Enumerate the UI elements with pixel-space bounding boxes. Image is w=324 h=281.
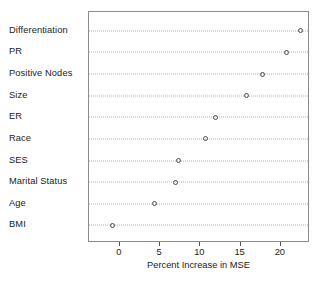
grid-line	[89, 95, 308, 96]
x-axis-tick-label: 5	[156, 247, 161, 257]
category-label: BMI	[0, 219, 79, 229]
x-axis-tick-label: 10	[194, 247, 204, 257]
grid-line	[89, 182, 308, 183]
grid-line	[89, 225, 308, 226]
x-axis-tick-label: 20	[275, 247, 285, 257]
data-point	[176, 158, 181, 163]
data-point	[244, 93, 249, 98]
category-label: Positive Nodes	[0, 68, 79, 78]
plot-area	[89, 12, 308, 241]
x-axis-tick	[159, 242, 160, 246]
category-axis-labels: DifferentiationPRPositive NodesSizeERRac…	[0, 18, 84, 246]
category-label: Differentiation	[0, 25, 79, 35]
dot-plot-figure: DifferentiationPRPositive NodesSizeERRac…	[0, 0, 324, 281]
category-label: Age	[0, 198, 79, 208]
x-axis-tick	[199, 242, 200, 246]
data-point	[260, 72, 265, 77]
x-axis-title: Percent Increase in MSE	[88, 260, 309, 270]
grid-line	[89, 74, 308, 75]
grid-line	[89, 52, 308, 53]
data-point	[203, 136, 208, 141]
data-point	[152, 201, 157, 206]
caption-strip	[0, 273, 324, 281]
category-label: Marital Status	[0, 176, 79, 186]
category-label: PR	[0, 46, 79, 56]
grid-line	[89, 138, 308, 139]
data-point	[173, 180, 178, 185]
grid-line	[89, 203, 308, 204]
x-axis-tick	[280, 242, 281, 246]
x-axis-tick	[119, 242, 120, 246]
grid-line	[89, 30, 308, 31]
category-label: ER	[0, 111, 79, 121]
plot-panel	[88, 11, 309, 242]
x-axis-tick	[240, 242, 241, 246]
grid-line	[89, 160, 308, 161]
category-label: Size	[0, 90, 79, 100]
data-point	[110, 223, 115, 228]
data-point	[284, 50, 289, 55]
category-label: SES	[0, 155, 79, 165]
x-axis-tick-label: 0	[116, 247, 121, 257]
category-label: Race	[0, 133, 79, 143]
data-point	[298, 28, 303, 33]
grid-line	[89, 117, 308, 118]
data-point	[213, 115, 218, 120]
x-axis-tick-label: 15	[234, 247, 244, 257]
